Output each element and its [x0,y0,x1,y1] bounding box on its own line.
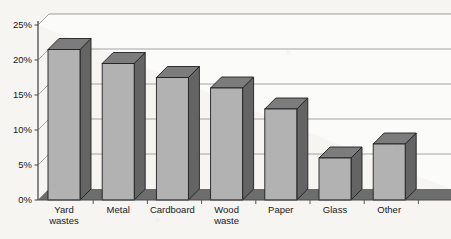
bar-column [319,147,362,200]
bar-front-face [156,78,188,201]
bar-column [265,98,308,200]
bar-front-face [211,88,243,200]
bar-side-face [188,67,199,201]
bar-side-face [297,98,308,200]
bar-column [373,133,416,200]
bar-column [156,67,199,201]
y-tick-label: 25% [13,19,33,30]
bar-column [211,77,254,200]
x-tick-label: Yard [54,204,73,215]
y-tick-label: 20% [13,54,33,65]
bar-front-face [373,144,405,200]
bar-front-face [265,109,297,200]
bar-column [102,53,145,201]
bar-side-face [80,39,91,201]
bar-chart-figure: 0%5%10%15%20%25% YardwastesMetalCardboar… [0,0,451,239]
y-tick-label: 0% [18,194,32,205]
bar-front-face [319,158,351,200]
chart-canvas: 0%5%10%15%20%25% YardwastesMetalCardboar… [0,0,451,239]
y-tick-label: 5% [18,159,32,170]
x-tick-label: wastes [48,215,79,226]
x-tick-label: Wood [214,204,239,215]
x-tick-label: Other [377,204,401,215]
x-tick-label: Glass [323,204,348,215]
bar-column [48,39,91,201]
bar-front-face [48,50,80,201]
x-tick-label: Metal [107,204,130,215]
x-tick-label: waste [213,215,239,226]
y-tick-label: 15% [13,89,33,100]
bar-side-face [134,53,145,201]
x-tick-label: Paper [268,204,293,215]
x-tick-label: Cardboard [150,204,195,215]
bar-side-face [243,77,254,200]
y-tick-label: 10% [13,124,33,135]
bar-side-face [405,133,416,200]
bar-front-face [102,64,134,201]
